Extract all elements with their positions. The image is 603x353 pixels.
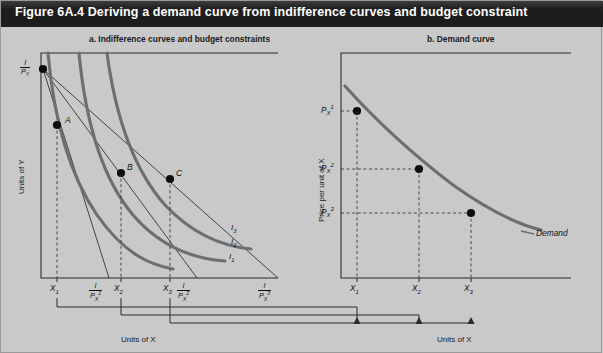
budget-intercept-3: I PX3 — [258, 282, 271, 302]
demand-point-1 — [353, 107, 361, 115]
budget-1-numerator: I — [89, 282, 102, 289]
arrowhead-x1 — [353, 317, 360, 324]
panel-a-xtick-x2: X2 — [114, 284, 123, 295]
panel-b-x-axis-label: Units of X — [437, 335, 472, 344]
budget-intercept-1: I PX1 — [89, 282, 102, 302]
connector-x3 — [170, 298, 471, 323]
panel-a-points — [39, 65, 174, 183]
panel-a-x-axis-label: Units of X — [121, 335, 156, 344]
budget-2-numerator: I — [177, 282, 190, 289]
indifference-curve-label-i3: I3 — [231, 223, 236, 234]
indifference-curve-i3 — [107, 53, 251, 249]
point-label-b: B — [127, 162, 133, 172]
panel-a-ticks — [57, 278, 170, 282]
panel-b-demand-curve — [345, 86, 541, 230]
demand-label-leader — [521, 231, 534, 234]
panel-b-price-label-1: PX1 — [321, 104, 334, 116]
point-c-dot — [166, 175, 174, 183]
arrowhead-x3 — [467, 317, 474, 324]
point-label-a: A — [65, 115, 71, 125]
demand-point-3 — [467, 209, 475, 217]
demand-curve-path — [345, 86, 541, 230]
budget-1-denominator: PX1 — [89, 291, 102, 302]
indifference-curve-label-i1: I1 — [229, 252, 234, 263]
point-a-dot — [53, 121, 61, 129]
demand-curve-label: Demand — [536, 228, 568, 238]
panel-b-price-label-3: PX3 — [321, 206, 334, 218]
demand-point-2 — [415, 165, 423, 173]
panel-a-xtick-x3: X3 — [163, 284, 172, 295]
panel-b-xtick-x2: X2 — [412, 284, 421, 295]
y-intercept-fraction: I PY — [20, 59, 30, 78]
budget-2-denominator: PX2 — [177, 291, 190, 302]
point-b-dot — [117, 169, 125, 177]
panel-a-axes — [41, 53, 278, 278]
panel-b-points — [353, 107, 475, 217]
panel-b-guides — [341, 111, 471, 278]
panel-b-xtick-x1: X1 — [350, 284, 359, 295]
panel-a-y-axis-label: Units of Y — [17, 159, 26, 194]
point-label-c: C — [176, 168, 182, 178]
y-intercept-dot — [39, 65, 47, 73]
panel-a-xtick-x1: X1 — [50, 284, 59, 295]
panel-a-indifference-curves — [48, 53, 251, 269]
indifference-curve-i2 — [79, 53, 225, 261]
arrowhead-x2 — [415, 317, 422, 324]
panel-b-ticks — [357, 278, 471, 282]
budget-3-denominator: PX3 — [258, 291, 271, 302]
panel-b-xtick-x3: X3 — [464, 284, 473, 295]
y-intercept-denominator: PY — [20, 68, 30, 78]
y-intercept-numerator: I — [20, 59, 30, 66]
panel-b-axes — [341, 53, 571, 278]
panel-a-droplines — [57, 125, 170, 278]
budget-3-numerator: I — [258, 282, 271, 289]
indifference-curve-label-i2: I2 — [231, 237, 236, 248]
budget-intercept-2: I PX2 — [177, 282, 190, 302]
panel-b-price-label-2: PX2 — [321, 162, 334, 174]
